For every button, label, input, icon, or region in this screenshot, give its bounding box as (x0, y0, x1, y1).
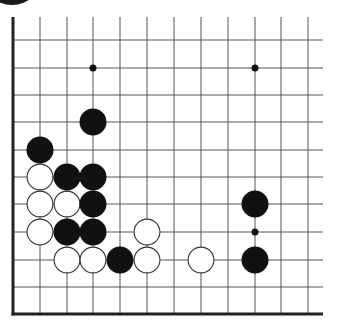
star-point (252, 229, 259, 236)
black-stone (54, 219, 81, 246)
white-stone (188, 247, 214, 273)
black-stone (27, 137, 54, 164)
white-stone (27, 164, 53, 190)
black-stone (80, 109, 107, 136)
black-stone (80, 191, 107, 218)
black-stone (54, 164, 81, 191)
star-point (90, 65, 97, 72)
white-stone (54, 191, 80, 217)
white-stone (80, 247, 106, 273)
white-stone (54, 247, 80, 273)
black-stone (242, 247, 269, 274)
go-board (0, 0, 337, 328)
white-stone (27, 191, 53, 217)
black-stone (80, 164, 107, 191)
black-stone (242, 191, 269, 218)
white-stone (134, 219, 160, 245)
white-stone (134, 247, 160, 273)
black-stone (80, 219, 107, 246)
star-point (252, 65, 259, 72)
black-stone (107, 247, 134, 274)
white-stone (27, 219, 53, 245)
board-borders (12, 17, 324, 316)
